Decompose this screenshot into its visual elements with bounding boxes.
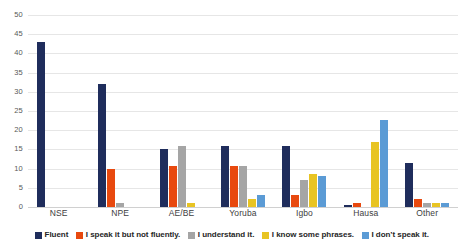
y-axis-tick-label: 10 [14,165,23,173]
bar[interactable] [441,203,449,207]
bar[interactable] [380,120,388,207]
bar[interactable] [414,199,422,207]
y-axis-tick-label: 20 [14,126,23,134]
y-axis-tick-label: 15 [14,146,23,154]
legend-item[interactable]: I speak it but not fluently. [76,231,180,239]
y-axis-tick-label: 40 [14,50,23,58]
bar[interactable] [291,195,299,207]
legend-label: I don’t speak it. [371,231,428,239]
bar[interactable] [371,142,379,207]
chart-legend: FluentI speak it but not fluently.I unde… [0,231,464,239]
bar[interactable] [239,166,247,207]
x-axis-label: NPE [89,209,150,218]
bar[interactable] [160,149,168,207]
bar[interactable] [230,166,238,207]
bar[interactable] [405,163,413,207]
x-axis-label: AE/BE [151,209,212,218]
legend-swatch-icon [188,232,195,239]
x-axis-label: Yoruba [212,209,273,218]
y-axis-tick-label: 25 [14,107,23,115]
x-axis-categories: NSENPEAE/BEYorubaIgboHausaOther [28,209,458,218]
y-axis: 05101520253035404550 [0,0,26,212]
bar-group [212,0,273,207]
legend-item[interactable]: I know some phrases. [262,231,354,239]
bar[interactable] [318,176,326,207]
bar[interactable] [353,203,361,207]
y-axis-tick-label: 45 [14,30,23,38]
y-axis-tick-label: 5 [19,184,23,192]
bar-group [151,0,212,207]
bar[interactable] [98,84,106,207]
bar[interactable] [423,203,431,207]
x-axis-label: Hausa [335,209,396,218]
bar-group [335,0,396,207]
y-axis-tick-label: 30 [14,88,23,96]
plot-area: 05101520253035404550 [0,0,464,212]
legend-swatch-icon [262,232,269,239]
x-axis-label: NSE [28,209,89,218]
legend-item[interactable]: I don’t speak it. [362,231,429,239]
bar-group [274,0,335,207]
legend-label: I speak it but not fluently. [86,231,180,239]
legend-swatch-icon [35,232,42,239]
bar[interactable] [248,199,256,207]
bar-group [397,0,458,207]
bar[interactable] [116,203,124,207]
bar[interactable] [187,203,195,207]
x-axis-label: Other [397,209,458,218]
bar-groups [28,0,458,207]
x-axis-label: Igbo [274,209,335,218]
y-axis-tick-label: 0 [19,203,23,211]
bar[interactable] [178,146,186,207]
bar-chart: 05101520253035404550 NSENPEAE/BEYorubaIg… [0,0,464,249]
bar[interactable] [107,169,115,207]
bar-group [28,0,89,207]
y-axis-tick-label: 35 [14,69,23,77]
bar[interactable] [309,174,317,207]
bar[interactable] [282,146,290,207]
bar[interactable] [344,205,352,207]
bar[interactable] [257,195,265,207]
legend-label: Fluent [45,231,69,239]
bar-group [89,0,150,207]
legend-label: I understand it. [198,231,255,239]
legend-swatch-icon [362,232,369,239]
bar[interactable] [300,180,308,207]
legend-label: I know some phrases. [272,231,354,239]
legend-item[interactable]: Fluent [35,231,68,239]
y-axis-tick-label: 50 [14,11,23,19]
legend-item[interactable]: I understand it. [188,231,254,239]
bar[interactable] [37,42,45,207]
bar[interactable] [169,166,177,207]
bar[interactable] [432,203,440,207]
bar[interactable] [221,146,229,207]
legend-swatch-icon [76,232,83,239]
